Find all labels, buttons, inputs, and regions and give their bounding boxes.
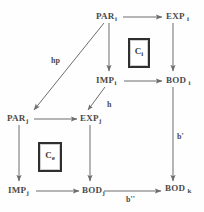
node-exp-j: EXPj xyxy=(80,114,101,125)
node-bod-k-base: BOD xyxy=(165,183,185,193)
box-c-e-subscript: e xyxy=(52,155,55,163)
commutative-diagram: PARi EXPi IMPi BODi PARj EXPj IMPj BODj … xyxy=(0,0,204,212)
box-c-i-inner: Ci xyxy=(130,40,148,66)
node-par-j-subscript: j xyxy=(25,117,28,125)
node-imp-i-subscript: i xyxy=(114,79,116,87)
node-imp-j-subscript: j xyxy=(26,189,29,197)
box-c-e-label: Ce xyxy=(45,151,55,162)
node-bod-i-subscript: i xyxy=(186,79,190,87)
arrow-par-i-to-par-j xyxy=(34,23,104,110)
node-exp-i: EXPi xyxy=(166,12,189,23)
node-imp-j: IMPj xyxy=(8,186,29,197)
box-c-i: Ci xyxy=(128,38,150,68)
node-bod-i: BODi xyxy=(166,76,191,87)
node-bod-j-base: BOD xyxy=(82,185,102,195)
node-par-i-base: PAR xyxy=(96,11,114,21)
node-par-j-base: PAR xyxy=(7,113,25,123)
node-bod-k-subscript: k xyxy=(185,187,191,195)
node-bod-j: BODj xyxy=(82,186,105,197)
box-c-e-inner: Ce xyxy=(40,144,60,170)
edge-label-hp: hp xyxy=(51,57,60,65)
box-c-i-subscript: i xyxy=(141,51,143,59)
node-exp-i-base: EXP xyxy=(166,11,185,21)
node-par-i-subscript: i xyxy=(114,15,116,23)
box-c-e: Ce xyxy=(38,142,62,172)
node-par-i: PARi xyxy=(96,12,117,23)
node-bod-j-subscript: j xyxy=(102,189,105,197)
node-exp-j-base: EXP xyxy=(80,113,99,123)
node-exp-j-subscript: j xyxy=(99,117,102,125)
node-imp-j-base: IMP xyxy=(8,185,26,195)
node-bod-k: BODk xyxy=(165,184,192,195)
edge-label-b-double-prime: b'' xyxy=(126,196,135,204)
node-par-j: PARj xyxy=(7,114,28,125)
node-exp-i-subscript: i xyxy=(185,15,189,23)
arrow-imp-i-to-exp-j xyxy=(88,87,105,110)
box-c-i-label: Ci xyxy=(135,47,143,58)
diagram-arrows-layer xyxy=(0,0,204,212)
node-imp-i: IMPi xyxy=(96,76,117,87)
node-bod-i-base: BOD xyxy=(166,75,186,85)
edge-label-h: h xyxy=(107,101,111,109)
edge-label-b-prime: b' xyxy=(177,133,184,141)
node-imp-i-base: IMP xyxy=(96,75,114,85)
